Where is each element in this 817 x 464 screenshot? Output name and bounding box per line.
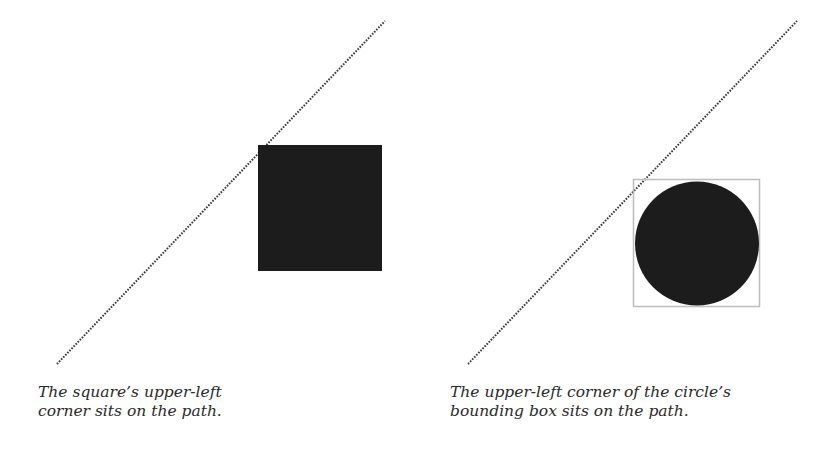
circle-diagram — [0, 0, 817, 380]
caption-line: bounding box sits on the path. — [450, 402, 689, 420]
caption-line: The upper-left corner of the circle’s — [450, 383, 731, 401]
circle-shape — [635, 182, 759, 306]
circle-caption: The upper-left corner of the circle’s bo… — [450, 383, 731, 421]
circle-panel: The upper-left corner of the circle’s bo… — [0, 0, 817, 464]
path-line — [468, 21, 797, 364]
